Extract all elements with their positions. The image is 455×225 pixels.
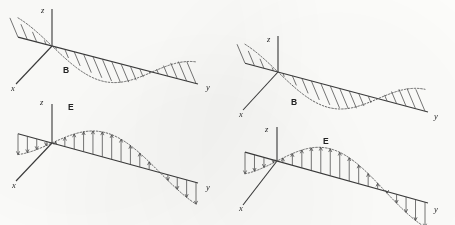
wave-curve [245, 147, 425, 225]
figure-root: zxyBzxyBzxyEzxyE [0, 0, 455, 225]
z-axis-label: z [264, 124, 269, 134]
y-axis [245, 152, 428, 203]
wave-panel-bottom-right: zxyE [0, 0, 455, 225]
y-axis-label: y [433, 204, 438, 214]
field-label: E [323, 136, 329, 146]
x-axis [243, 161, 277, 205]
x-axis-label: x [238, 203, 243, 213]
